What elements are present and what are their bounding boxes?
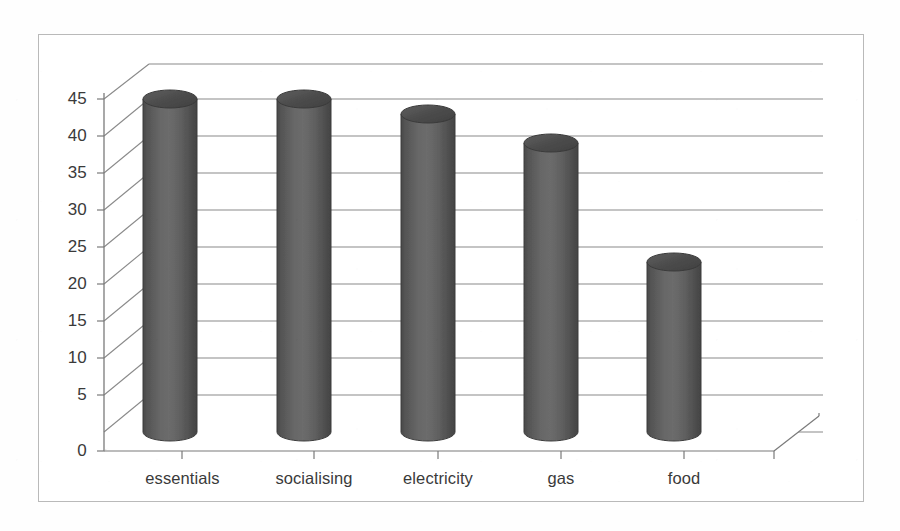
y-tick-label-30: 30 xyxy=(47,201,87,218)
bar-essentials xyxy=(143,90,197,441)
bar-electricity xyxy=(401,105,455,441)
y-tick-label-45: 45 xyxy=(47,90,87,107)
cylinder-bar-chart-plot xyxy=(39,35,863,501)
x-category-label-essentials: essentials xyxy=(110,469,255,487)
floor-plane xyxy=(104,416,819,451)
axis-depth-connectors xyxy=(104,64,149,451)
chart-figure: 45 40 35 30 25 20 15 10 5 0 essentials s… xyxy=(0,0,900,531)
y-axis-ticks xyxy=(97,99,104,451)
y-tick-label-20: 20 xyxy=(47,275,87,292)
x-category-label-gas: gas xyxy=(491,469,631,487)
bar-food xyxy=(647,253,701,441)
y-tick-label-5: 5 xyxy=(47,386,87,403)
chart-frame: 45 40 35 30 25 20 15 10 5 0 essentials s… xyxy=(38,34,864,502)
y-tick-label-10: 10 xyxy=(47,349,87,366)
gridlines xyxy=(149,64,823,432)
y-tick-label-25: 25 xyxy=(47,238,87,255)
y-tick-label-0: 0 xyxy=(47,442,87,459)
x-category-label-food: food xyxy=(614,469,754,487)
x-axis-ticks xyxy=(182,451,774,459)
y-tick-label-40: 40 xyxy=(47,127,87,144)
y-tick-label-15: 15 xyxy=(47,312,87,329)
bar-gas xyxy=(524,134,578,441)
y-tick-label-35: 35 xyxy=(47,164,87,181)
bar-socialising xyxy=(277,90,331,441)
